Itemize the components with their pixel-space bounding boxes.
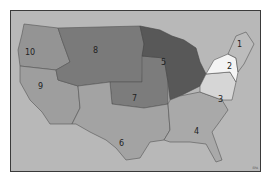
region-1-label: 1 [237, 40, 242, 49]
region-4-label: 4 [194, 127, 199, 136]
region-9-label: 9 [38, 82, 43, 91]
region-7-label: 7 [132, 94, 137, 103]
region-8[interactable] [56, 26, 144, 86]
region-6-label: 6 [119, 139, 124, 148]
region-10-label: 10 [25, 48, 35, 57]
region-8-label: 8 [93, 46, 98, 55]
region-2-label: 2 [227, 62, 232, 71]
us-epa-regions-map: 1 2 3 4 5 6 7 8 9 10 [0, 0, 274, 185]
map-credit: EPA [252, 166, 258, 170]
region-5-label: 5 [161, 58, 166, 67]
region-3-label: 3 [218, 95, 223, 104]
